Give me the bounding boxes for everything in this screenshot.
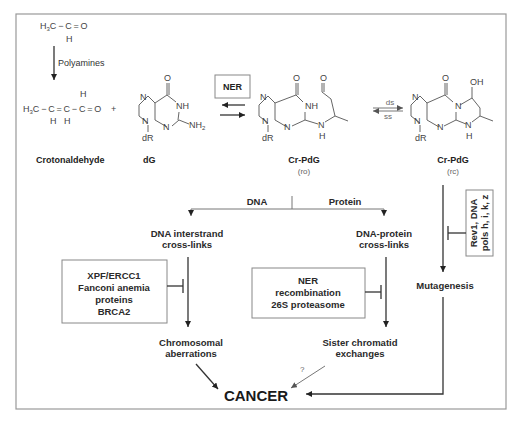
sister-to-cancer-arrow: [291, 366, 325, 388]
crotonaldehyde-structure: H H3C − C = C − C = O H H: [23, 89, 101, 126]
svg-text:N: N: [318, 120, 325, 130]
diagram-frame: [16, 14, 506, 409]
icl-repair-line-1: XPF/ERCC1: [87, 270, 141, 281]
ner-box-label: NER: [223, 82, 243, 92]
chromosomal-label-1: Chromosomal: [159, 337, 223, 348]
svg-text:H3C − C = O: H3C − C = O: [40, 21, 88, 32]
polyamines-label: Polyamines: [58, 58, 105, 68]
cr-pdg-rc-label: Cr-PdG: [437, 155, 469, 165]
svg-text:NH: NH: [176, 101, 189, 111]
svg-text:dR: dR: [142, 133, 154, 143]
svg-text:O: O: [164, 73, 171, 83]
pathway-diagram: H3C − C = O H Polyamines H H3C − C = C −…: [0, 0, 519, 424]
svg-text:N: N: [163, 122, 170, 132]
svg-text:dR: dR: [415, 133, 427, 143]
ds-label: ds: [386, 98, 394, 107]
dpc-label-2: cross-links: [359, 239, 409, 250]
ss-label: ss: [384, 112, 392, 121]
cr-pdg-rc-structure: O OH N N N N N H dR: [411, 73, 493, 143]
icl-repair-line-4: BRCA2: [98, 306, 131, 317]
svg-text:O: O: [293, 73, 300, 83]
dg-label: dG: [143, 155, 156, 165]
svg-text:N: N: [414, 116, 421, 126]
cr-pdg-ro-form: (ro): [298, 167, 311, 176]
cr-pdg-ro-structure: O O N NH N N N H dR: [259, 73, 348, 143]
dpc-repair-line-1: NER: [298, 275, 318, 286]
sister-label-1: Sister chromatid: [323, 337, 398, 348]
svg-text:NH2: NH2: [189, 120, 206, 131]
svg-text:H: H: [64, 116, 71, 126]
branch-dna-label: DNA: [247, 196, 268, 207]
dpc-label-1: DNA-protein: [356, 228, 412, 239]
interstrand-label-1: DNA interstrand: [151, 228, 224, 239]
svg-text:N: N: [284, 122, 291, 132]
svg-text:O: O: [442, 73, 449, 83]
tls-line-2: pols h, i, k, z: [479, 195, 490, 252]
svg-text:dR: dR: [262, 133, 274, 143]
crotonaldehyde-label: Crotonaldehyde: [36, 155, 105, 165]
svg-text:N: N: [260, 92, 267, 102]
mutagenesis-label: Mutagenesis: [416, 280, 474, 291]
plus-sign: +: [111, 104, 116, 114]
svg-text:H: H: [319, 131, 326, 141]
svg-text:N: N: [455, 101, 462, 111]
cr-pdg-ro-label: Cr-PdG: [288, 155, 320, 165]
dpc-repair-line-2: recombination: [275, 287, 341, 298]
svg-text:H: H: [50, 116, 57, 126]
svg-text:N: N: [140, 92, 147, 102]
svg-text:OH: OH: [470, 77, 484, 87]
svg-text:O: O: [320, 73, 327, 83]
svg-text:H: H: [80, 89, 87, 99]
icl-repair-line-2: Fanconi anemia: [78, 282, 151, 293]
dg-structure: O N NH N N NH2 dR: [139, 73, 206, 143]
cr-pdg-rc-form: (rc): [447, 167, 459, 176]
svg-text:N: N: [412, 92, 419, 102]
branch-protein-label: Protein: [329, 196, 362, 207]
dpc-repair-line-3: 26S proteasome: [271, 299, 344, 310]
svg-text:N: N: [262, 116, 269, 126]
svg-text:N: N: [465, 120, 472, 130]
acetaldehyde-structure: H3C − C = O H: [40, 21, 88, 44]
uncertain-mark: ?: [300, 365, 305, 374]
icl-repair-line-3: proteins: [95, 294, 132, 305]
svg-text:NH: NH: [305, 101, 318, 111]
svg-text:N: N: [437, 122, 444, 132]
sister-label-2: exchanges: [335, 348, 384, 359]
chromosomal-to-cancer-arrow: [196, 364, 218, 389]
cancer-label: CANCER: [224, 387, 288, 404]
tls-line-1: Rev1, DNA: [468, 199, 479, 248]
interstrand-label-2: cross-links: [162, 239, 212, 250]
svg-text:H: H: [66, 34, 73, 44]
svg-text:N: N: [142, 116, 149, 126]
svg-text:H: H: [466, 131, 473, 141]
svg-text:H3C − C = C − C = O: H3C − C = C − C = O: [23, 104, 101, 115]
chromosomal-label-2: aberrations: [165, 348, 217, 359]
